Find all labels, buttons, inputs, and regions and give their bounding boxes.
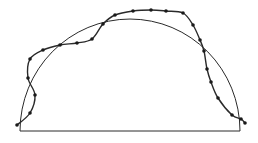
diagram-canvas xyxy=(0,0,258,143)
semicircle-diagram xyxy=(0,0,258,143)
semicircle-arc xyxy=(20,19,240,131)
sample-point xyxy=(205,67,209,71)
sample-curve xyxy=(17,10,245,125)
sample-point xyxy=(15,123,19,127)
sample-point xyxy=(202,49,206,53)
sample-point xyxy=(239,117,243,121)
sample-point xyxy=(28,57,32,61)
sample-point xyxy=(209,80,213,84)
sample-point xyxy=(216,96,220,100)
sample-point xyxy=(28,111,32,115)
sample-point xyxy=(131,9,135,13)
sample-points xyxy=(15,8,247,127)
sample-point xyxy=(149,8,153,12)
sample-point xyxy=(113,13,117,17)
sample-point xyxy=(33,93,37,97)
sample-point xyxy=(243,121,247,125)
sample-point xyxy=(101,22,105,26)
sample-point xyxy=(181,11,185,15)
sample-point xyxy=(230,113,234,117)
sample-point xyxy=(41,48,45,52)
sample-point xyxy=(191,23,195,27)
sample-point xyxy=(198,38,202,42)
sample-point xyxy=(164,9,168,13)
sample-point xyxy=(90,37,94,41)
sample-point xyxy=(75,41,79,45)
sample-point xyxy=(26,76,30,80)
sample-point xyxy=(58,43,62,47)
